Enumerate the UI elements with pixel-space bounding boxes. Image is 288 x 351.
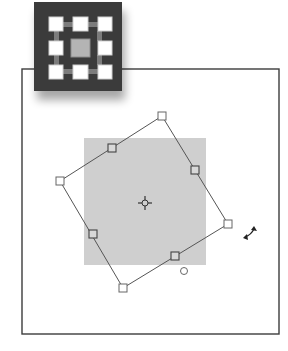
handle-left[interactable] xyxy=(56,177,64,185)
reference-point-grid-icon xyxy=(34,2,122,91)
original-object xyxy=(84,138,206,265)
handle-top[interactable] xyxy=(158,112,166,120)
handle-bottom[interactable] xyxy=(119,284,127,292)
handle-bottom-left-edge[interactable] xyxy=(89,230,97,238)
handle-right[interactable] xyxy=(224,220,232,228)
handle-top-left-edge[interactable] xyxy=(108,144,116,152)
anchor-circle-icon xyxy=(181,268,188,275)
handle-bottom-right-edge[interactable] xyxy=(171,252,179,260)
illustration-stage xyxy=(0,0,288,351)
handle-top-right-edge[interactable] xyxy=(191,166,199,174)
